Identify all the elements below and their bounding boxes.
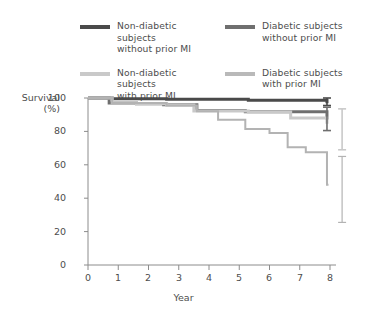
survival-curve-1 bbox=[88, 98, 328, 102]
survival-chart-figure: Non-diabetic subjects without prior MI D… bbox=[0, 0, 367, 316]
plot-area bbox=[0, 0, 367, 316]
